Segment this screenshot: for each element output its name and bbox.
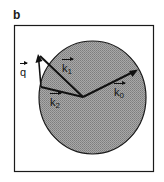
label-k0: k0 — [114, 87, 124, 100]
vector-arrow-icon — [62, 59, 73, 60]
vector-arrow-icon — [114, 83, 125, 84]
vector-arrow-icon — [50, 93, 61, 94]
diagram-canvas — [0, 0, 164, 182]
label-q: q — [20, 67, 26, 78]
panel-label: b — [13, 8, 20, 22]
vector-arrow-icon — [20, 63, 27, 64]
ewald-sphere-figure: b q k1 k2 k0 — [0, 0, 164, 182]
label-k2: k2 — [50, 97, 60, 110]
label-k1: k1 — [62, 63, 72, 76]
